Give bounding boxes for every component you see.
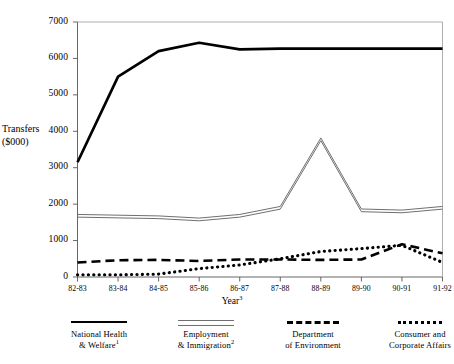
legend-label-line2: Corporate Affairs	[366, 340, 454, 351]
legend-line-icon	[178, 320, 234, 326]
series-line-1	[78, 138, 443, 221]
chart-legend: National Health& Welfare1Employment& Imm…	[0, 318, 454, 364]
data-series-group	[78, 43, 443, 275]
legend-swatch-dotted	[392, 318, 448, 327]
series-line-0	[78, 43, 443, 162]
legend-swatch-solid-thick	[71, 318, 127, 327]
legend-label-line1: Department	[259, 329, 367, 340]
axis-lines	[73, 22, 443, 282]
legend-item: Consumer andCorporate Affairs	[366, 318, 454, 350]
legend-line-icon	[71, 321, 127, 323]
plot-area	[0, 0, 454, 364]
legend-label-line1: Employment	[152, 329, 260, 340]
legend-swatch-double-line	[178, 318, 234, 327]
legend-item: Employment& Immigration2	[152, 318, 260, 350]
legend-swatch-dashed	[285, 318, 341, 327]
legend-label-line1: National Health	[45, 329, 153, 340]
legend-label-superscript: 1	[116, 338, 119, 345]
legend-line-icon	[287, 321, 339, 324]
legend-label-line2: & Immigration2	[152, 340, 260, 351]
legend-item: Departmentof Environment	[259, 318, 367, 350]
chart-figure: Transfers ($000) Year3 01000200030004000…	[0, 0, 454, 364]
legend-label-line2: & Welfare1	[45, 340, 153, 351]
legend-line-icon	[398, 321, 442, 324]
legend-item: National Health& Welfare1	[45, 318, 153, 350]
series-line-stroke	[78, 141, 443, 221]
series-line-stroke	[78, 138, 443, 218]
legend-label-line1: Consumer and	[366, 329, 454, 340]
legend-label-line2: of Environment	[259, 340, 367, 351]
legend-label-superscript: 2	[231, 338, 234, 345]
